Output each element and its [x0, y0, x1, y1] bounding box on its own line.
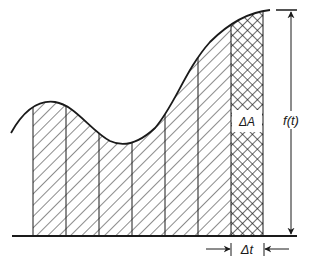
area-under-curve-diagram: f(t) ΔA Δt: [0, 0, 313, 265]
f-of-t-label: f(t): [283, 113, 299, 128]
diagram-canvas: f(t) ΔA Δt: [0, 0, 313, 265]
delta-area-label: ΔA: [238, 115, 255, 129]
delta-t-label: Δt: [240, 242, 255, 257]
